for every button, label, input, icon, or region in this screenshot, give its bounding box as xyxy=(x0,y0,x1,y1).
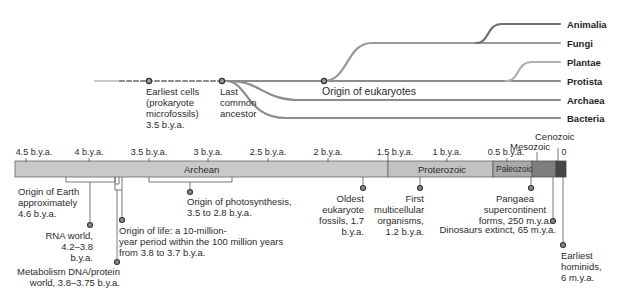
node-last-common-ancestor xyxy=(219,78,224,83)
event-origin-life: Origin of life: a 10-million- year perio… xyxy=(119,225,283,258)
kingdom-archaea: Archaea xyxy=(567,95,605,106)
kingdom-fungi: Fungi xyxy=(567,38,593,49)
event-metabolism: Metabolism DNA/protein world, 3.8–3.75 b… xyxy=(10,266,120,288)
era-mesozoic: Mesozoic xyxy=(510,141,550,152)
era-cenozoic: Cenozoic xyxy=(535,131,575,142)
event-multicellular: First multicellular organisms, 1.2 b.y.a… xyxy=(374,193,424,237)
label-origin-eukaryotes: Origin of eukaryotes xyxy=(322,86,416,97)
tick-1-5: 1.5 b.y.a. xyxy=(377,147,413,157)
event-rna-world: RNA world, 4.2–3.8 b.y.a. xyxy=(38,230,93,263)
event-origin-earth: Origin of Earth approximately 4.6 b.y.a. xyxy=(18,186,79,219)
tick-0: 0 xyxy=(561,147,566,157)
timeline-bar xyxy=(15,161,566,177)
event-pangaea: Pangaea supercontinent forms, 250 m.y.a. xyxy=(475,193,555,226)
tick-3: 3 b.y.a. xyxy=(194,147,223,157)
tick-2: 2 b.y.a. xyxy=(314,147,343,157)
kingdom-bacteria: Bacteria xyxy=(567,113,605,124)
kingdom-plantae: Plantae xyxy=(567,57,601,68)
event-dinosaurs: Dinosaurs extinct, 65 m.y.a. xyxy=(430,224,556,235)
tick-2-5: 2.5 b.y.a. xyxy=(250,147,286,157)
node-origin-eukaryotes xyxy=(321,78,326,83)
node-earliest-cells xyxy=(146,78,151,83)
tick-3-5: 3.5 b.y.a. xyxy=(131,147,167,157)
event-hominids: Earliest hominids, 6 m.y.a. xyxy=(561,250,602,283)
kingdom-animalia: Animalia xyxy=(567,19,607,30)
kingdom-protista: Protista xyxy=(567,76,602,87)
tick-4-5: 4.5 b.y.a. xyxy=(16,147,52,157)
label-earliest-cells: Earliest cells (prokaryote microfossils)… xyxy=(146,86,199,130)
era-proterozoic: Proterozoic xyxy=(418,164,466,175)
tick-1: 1 b.y.a. xyxy=(433,147,462,157)
label-last-common-ancestor: Last common ancestor xyxy=(220,86,256,119)
event-photosynthesis: Origin of photosynthesis, 3.5 to 2.8 b.y… xyxy=(187,196,292,218)
tick-4: 4 b.y.a. xyxy=(75,147,104,157)
event-eukaryote-fossils: Oldest eukaryote fossils, 1.7 b.y.a. xyxy=(296,193,364,237)
era-archean: Archean xyxy=(184,164,219,175)
era-paleozoic: Paleozoic xyxy=(496,164,533,174)
